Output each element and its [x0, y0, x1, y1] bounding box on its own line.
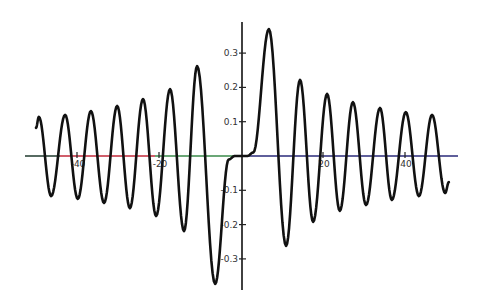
- x-tick-label: -20: [153, 159, 168, 169]
- y-tick-label: -0.3: [220, 254, 238, 264]
- chart-plot: -40-202040 0.30.20.1-0.1-0.2-0.3: [0, 0, 480, 303]
- x-tick-label: 40: [400, 159, 412, 169]
- y-tick-label: 0.1: [224, 117, 238, 127]
- y-tick-label: 0.2: [224, 82, 238, 92]
- y-tick-label: 0.3: [224, 48, 238, 58]
